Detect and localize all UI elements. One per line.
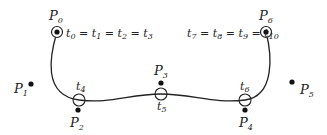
knot-marker-start xyxy=(52,27,63,38)
label-t4: t4 xyxy=(76,80,86,94)
label-start-knots: t0 = t1 = t2 = t3 xyxy=(66,27,153,41)
label-t6: t6 xyxy=(240,80,250,94)
label-p1: P1 xyxy=(13,81,28,98)
control-point-p5 xyxy=(289,79,294,84)
label-p6: P6 xyxy=(258,8,273,25)
control-point-p2 xyxy=(75,107,80,112)
control-point-p1 xyxy=(28,81,33,86)
label-t5: t5 xyxy=(157,100,167,114)
control-point-p4 xyxy=(242,107,247,112)
label-p3: P3 xyxy=(153,63,168,80)
label-p2: P2 xyxy=(69,115,84,132)
label-end-knots: t7 = t8 = t9 = t10 xyxy=(187,27,279,41)
bspline-diagram: P0 P1 P2 P3 P4 P5 P6 t0 = t1 = t2 = t3 t… xyxy=(0,0,327,135)
control-point-p3 xyxy=(158,80,163,85)
label-p0: P0 xyxy=(48,8,63,25)
label-p5: P5 xyxy=(299,82,314,99)
label-p4: P4 xyxy=(238,115,253,132)
